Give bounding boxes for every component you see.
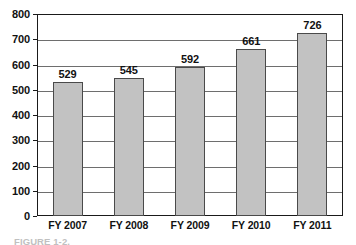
y-tick-label: 200 — [12, 160, 30, 172]
bar-value-label: 529 — [59, 68, 77, 80]
bar-group: 529 — [37, 14, 98, 216]
y-tick-mark — [33, 216, 37, 217]
bar-chart-figure: 8007006005004003002001000 52954559266172… — [0, 0, 356, 245]
y-tick-label: 600 — [12, 59, 30, 71]
bar[interactable] — [114, 78, 144, 216]
bar-group: 726 — [282, 14, 343, 216]
bar[interactable] — [297, 33, 327, 216]
bar[interactable] — [175, 67, 205, 216]
bar-value-label: 545 — [120, 64, 138, 76]
bar[interactable] — [53, 82, 83, 216]
bar-group: 661 — [221, 14, 282, 216]
y-tick-label: 500 — [12, 84, 30, 96]
y-tick-label: 700 — [12, 33, 30, 45]
y-tick-label: 100 — [12, 185, 30, 197]
bar-group: 545 — [98, 14, 159, 216]
bar[interactable] — [236, 49, 266, 216]
x-tick-label: FY 2010 — [232, 219, 271, 231]
bars-layer: 529545592661726 — [37, 14, 343, 216]
bar-value-label: 726 — [303, 19, 321, 31]
x-tick-label: FY 2011 — [293, 219, 331, 231]
y-axis: 8007006005004003002001000 — [0, 0, 37, 245]
y-tick-label: 0 — [24, 210, 30, 222]
x-tick-label: FY 2007 — [48, 219, 87, 231]
bar-group: 592 — [159, 14, 220, 216]
x-axis: FY 2007FY 2008FY 2009FY 2010FY 2011 — [37, 219, 343, 235]
bar-value-label: 661 — [242, 35, 260, 47]
y-tick-label: 800 — [12, 8, 30, 20]
y-tick-label: 300 — [12, 134, 30, 146]
x-tick-label: FY 2009 — [171, 219, 210, 231]
figure-caption: FIGURE 1-2. — [14, 236, 344, 245]
y-tick-label: 400 — [12, 109, 30, 121]
bar-value-label: 592 — [181, 53, 199, 65]
x-tick-label: FY 2008 — [109, 219, 148, 231]
